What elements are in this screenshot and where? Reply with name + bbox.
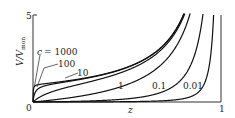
c-symbol: c (37, 47, 42, 57)
label-c0.01: 0.01 (183, 81, 203, 91)
c1000-value: = 1000 (44, 47, 78, 57)
bet-isotherm-chart: 5 0 1 z V/Vmon c= 1000 100 10 1 0.1 0.01 (0, 0, 235, 118)
label-c0.1: 0.1 (152, 81, 166, 91)
y-axis-label: V/Vmon (15, 37, 26, 66)
label-c1: 1 (118, 81, 124, 91)
y-axis-label-sub: mon (19, 37, 26, 50)
y-axis-label-main: V/V (15, 48, 25, 66)
label-c10: 10 (77, 68, 89, 78)
y-tick-5: 5 (26, 11, 32, 21)
curve-c-1 (33, 13, 190, 102)
leader-c100 (44, 64, 58, 68)
label-c100: 100 (58, 59, 75, 69)
label-c1000: c= 1000 (37, 47, 78, 57)
x-tick-1: 1 (219, 104, 225, 114)
x-axis-label: z (127, 105, 133, 115)
origin-label: 0 (26, 103, 32, 113)
svg-text:V/Vmon: V/Vmon (15, 37, 26, 66)
